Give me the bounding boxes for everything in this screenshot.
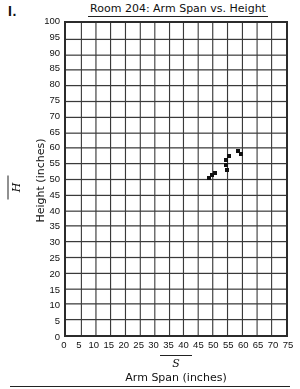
x-axis-label-underline	[10, 386, 290, 387]
x-axis-ticks: 051015202530354045505560657075	[64, 339, 288, 353]
y-variable-group: H	[5, 158, 24, 218]
y-axis-tick-label: 85	[36, 64, 60, 74]
x-axis-tick-label: 60	[238, 339, 249, 350]
x-axis-tick-label: 65	[253, 339, 264, 350]
x-axis-tick-label: 40	[178, 339, 189, 350]
x-axis-tick-label: 0	[61, 339, 66, 350]
data-points-layer	[66, 23, 286, 335]
chart-title: Room 204: Arm Span vs. Height	[64, 2, 292, 17]
x-variable-symbol: S	[160, 355, 192, 370]
y-axis-tick-label: 95	[36, 32, 60, 42]
y-axis-tick-label: 90	[36, 48, 60, 58]
x-axis-tick-label: 55	[223, 339, 234, 350]
x-axis-tick-label: 15	[104, 339, 115, 350]
y-variable-symbol: H	[8, 176, 23, 200]
y-axis-tick-label: 80	[36, 79, 60, 89]
x-axis-tick-label: 45	[193, 339, 204, 350]
data-point	[225, 168, 229, 172]
data-point	[224, 163, 228, 167]
problem-number: I.	[8, 3, 17, 19]
y-axis-tick-label: 15	[36, 285, 60, 295]
y-axis-tick-label: 5	[36, 316, 60, 326]
x-axis-tick-label: 35	[163, 339, 174, 350]
x-axis-tick-label: 10	[89, 339, 100, 350]
y-axis-label-group: H Height (inches)	[16, 100, 62, 280]
x-axis-label: Arm Span (inches)	[64, 371, 288, 384]
x-axis-tick-label: 30	[148, 339, 159, 350]
x-axis-tick-label: 25	[133, 339, 144, 350]
data-point	[227, 154, 231, 158]
chart-title-text: Room 204: Arm Span vs. Height	[88, 2, 268, 17]
x-axis-tick-label: 75	[283, 339, 294, 350]
y-axis-label: Height (inches)	[34, 105, 47, 257]
x-axis-label-group: S Arm Span (inches)	[64, 352, 288, 384]
x-axis-tick-label: 20	[118, 339, 129, 350]
data-point	[213, 171, 217, 175]
x-axis-tick-label: 50	[208, 339, 219, 350]
data-point	[224, 158, 228, 162]
y-axis-tick-label: 100	[36, 16, 60, 26]
data-point	[239, 152, 243, 156]
y-axis-tick-label: 10	[36, 301, 60, 311]
x-axis-tick-label: 70	[268, 339, 279, 350]
scatter-plot-area	[64, 21, 288, 337]
x-axis-tick-label: 5	[76, 339, 81, 350]
y-axis-tick-label: 0	[36, 332, 60, 342]
